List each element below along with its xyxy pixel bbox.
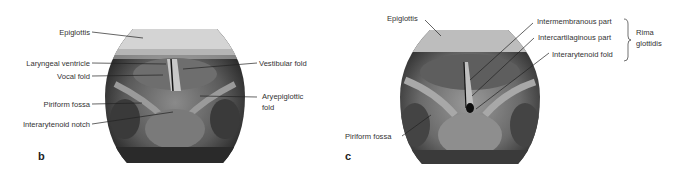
label-epiglottis: Epiglottis [387,14,418,23]
label-epiglottis: Epiglottis [59,28,90,37]
label-intercartilaginous-part: Intercartilaginous part [538,33,611,42]
label-vocal-fold: Vocal fold [57,72,90,81]
figure-panel-c: Epiglottis Intermembranous part Intercar… [337,0,677,172]
label-interarytenoid-fold: Interarytenoid fold [552,50,613,59]
laryngoscopy-photo-b [105,29,245,163]
label-laryngeal-ventricle: Laryngeal ventricle [26,59,90,68]
label-vestibular-fold: Vestibular fold [259,59,307,68]
laryngoscopy-photo-c [400,30,540,164]
label-rima-glottidis-1: Rima [636,28,654,37]
panel-letter-b: b [38,150,45,162]
panel-letter-c: c [345,150,351,162]
rima-bracket [624,19,631,61]
label-intermembranous-part: Intermembranous part [537,17,612,26]
label-interarytenoid-notch: Interarytenoid notch [23,120,90,129]
label-aryepiglottic-fold-2: fold [262,103,274,112]
figure-panel-b: Epiglottis Laryngeal ventricle Vocal fol… [0,0,337,172]
label-aryepiglottic-fold-1: Aryepiglottic [262,92,303,101]
label-piriform-fossa: Piriform fossa [345,132,391,141]
label-rima-glottidis-2: glottidis [636,39,662,48]
label-piriform-fossa: Piriform fossa [44,100,90,109]
